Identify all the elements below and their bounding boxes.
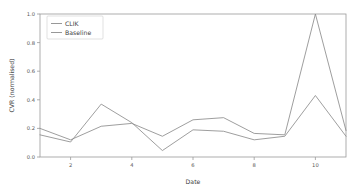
x-tick-label-3: 8 [253, 162, 256, 168]
y-tick-label-3: 0.6 [27, 68, 35, 74]
y-tick-label-5: 1.0 [27, 11, 35, 17]
y-tick-label-2: 0.4 [27, 97, 36, 103]
chart-figure: 0.0 0.2 0.4 0.6 0.8 1.0 2 4 6 8 10 Date … [0, 0, 363, 192]
x-tick-label-0: 2 [69, 162, 72, 168]
y-tick-label-1: 0.2 [27, 125, 35, 131]
x-tick-label-4: 10 [312, 162, 319, 168]
y-tick-label-4: 0.8 [27, 40, 35, 46]
legend: CLIK Baseline [47, 16, 103, 39]
y-tick-label-0: 0.0 [27, 154, 35, 160]
y-axis-title: CVR (normalised) [8, 58, 15, 112]
x-axis-title: Date [186, 178, 201, 185]
legend-label-baseline: Baseline [65, 29, 91, 36]
legend-label-clik: CLIK [65, 20, 80, 27]
line-chart: 0.0 0.2 0.4 0.6 0.8 1.0 2 4 6 8 10 Date … [0, 0, 363, 192]
x-tick-label-2: 6 [191, 162, 194, 168]
